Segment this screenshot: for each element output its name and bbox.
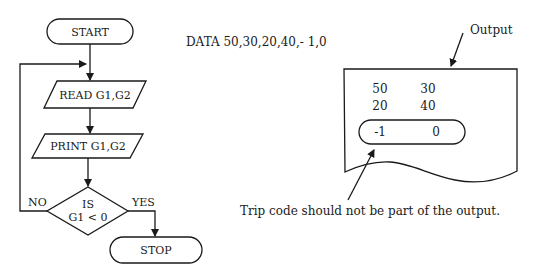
output-row2-col1: 20: [372, 99, 387, 113]
trip-row-col2: 0: [432, 125, 440, 139]
output-row1-col1: 50: [372, 82, 387, 96]
read-input-block: READ G1,G2: [44, 81, 146, 108]
decision-diamond: IS G1 < 0: [47, 187, 128, 235]
print-output-block: PRINT G1,G2: [32, 134, 143, 158]
yes-label: YES: [131, 196, 155, 209]
print-label: PRINT G1,G2: [50, 140, 126, 153]
yes-arrow: [128, 211, 155, 236]
read-label: READ G1,G2: [59, 89, 131, 102]
annotation-text: Trip code should not be part of the outp…: [240, 204, 500, 218]
start-label: START: [71, 26, 109, 39]
trip-row-col1: -1: [374, 125, 386, 139]
stop-terminal: STOP: [110, 237, 202, 263]
decision-line1: IS: [82, 198, 94, 211]
data-statement: DATA 50,30,20,40,- 1,0: [186, 35, 327, 49]
decision-line2: G1 < 0: [69, 211, 108, 224]
output-row2-col2: 40: [420, 99, 435, 113]
output-pointer-arrow: [451, 33, 463, 66]
flowchart-diagram: START READ G1,G2 PRINT G1,G2 IS G1 < 0 N…: [0, 0, 537, 278]
no-label: NO: [28, 196, 47, 209]
output-caption: Output: [470, 23, 513, 37]
output-row1-col2: 30: [420, 82, 435, 96]
stop-label: STOP: [140, 244, 172, 257]
start-terminal: START: [47, 19, 133, 44]
